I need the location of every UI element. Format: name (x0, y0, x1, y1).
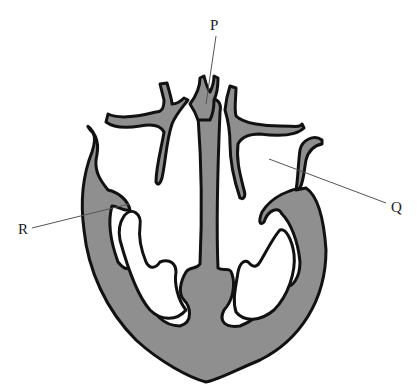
label-r: R (18, 222, 28, 237)
central-vessel (190, 76, 218, 120)
heart-diagram: P Q R (0, 0, 417, 388)
label-r-leader (32, 204, 129, 228)
right-vessel (225, 86, 304, 199)
label-p: P (210, 18, 218, 33)
label-q: Q (391, 200, 402, 215)
left-vessel (106, 83, 188, 184)
heart-drawing (0, 0, 417, 388)
